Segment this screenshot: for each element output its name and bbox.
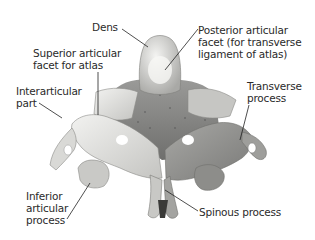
label-posterior-articular-facet: Posterior articular facet (for transvers… [198, 24, 301, 60]
label-interarticular-part: Interarticular part [16, 85, 82, 109]
label-dens: Dens [92, 21, 118, 33]
label-transverse-process: Transverse process [247, 80, 302, 104]
label-superior-articular-facet: Superior articular facet for atlas [33, 47, 121, 71]
label-spinous-process: Spinous process [199, 206, 281, 218]
label-inferior-articular-process: Inferior articular process [26, 190, 68, 226]
anatomy-figure: Dens Superior articular facet for atlas … [0, 0, 315, 240]
